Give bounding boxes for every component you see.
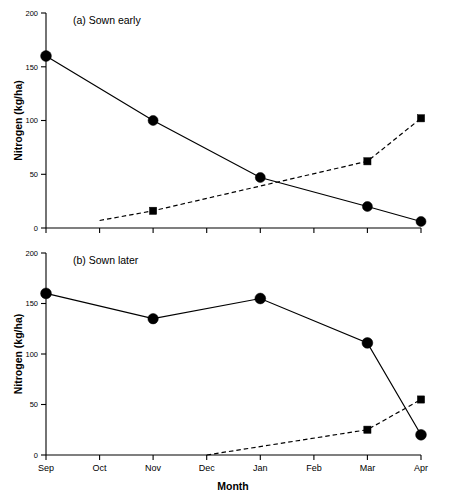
panel-a-ytick-100: 100 [25, 116, 38, 125]
panel-b-label: (b) Sown later [73, 254, 139, 266]
panel-b-crop-nitrogen-line [207, 400, 421, 456]
panel-a-x-ticks [46, 228, 421, 233]
panel-b-ytick-100: 100 [25, 350, 38, 359]
panel-b: (b) Sown later 0 50 100 150 200 [12, 249, 428, 492]
panel-b-soil-nitrogen-markers [41, 288, 427, 440]
panel-a-crop-nitrogen-line [100, 118, 421, 220]
xtick-sep: Sep [38, 463, 54, 473]
panel-a-ytick-150: 150 [25, 63, 38, 72]
xtick-jan: Jan [253, 463, 268, 473]
panel-a-y-axis-title: Nitrogen (kg/ha) [12, 80, 24, 161]
panel-a-crop-nitrogen-markers [150, 115, 425, 215]
panel-a-ytick-0: 0 [34, 224, 38, 233]
panel-a-soil-nitrogen-line [46, 56, 421, 222]
panel-b-ytick-0: 0 [34, 451, 38, 460]
xtick-nov: Nov [145, 463, 162, 473]
panel-a-ytick-50: 50 [30, 170, 38, 179]
x-axis-title: Month [217, 480, 249, 492]
panel-b-ytick-50: 50 [30, 400, 38, 409]
nitrogen-month-chart: (a) Sown early 0 50 100 150 200 [0, 0, 449, 496]
xtick-feb: Feb [306, 463, 322, 473]
panel-b-soil-nitrogen-line [46, 293, 421, 434]
xtick-mar: Mar [360, 463, 376, 473]
panel-b-crop-nitrogen-markers [364, 396, 425, 433]
xtick-apr: Apr [414, 463, 428, 473]
panel-a-y-ticklabels: 0 50 100 150 200 [25, 9, 38, 233]
panel-a: (a) Sown early 0 50 100 150 200 [12, 9, 426, 233]
figure-container: (a) Sown early 0 50 100 150 200 [0, 0, 449, 496]
panel-b-y-ticklabels: 0 50 100 150 200 [25, 249, 38, 460]
xtick-dec: Dec [199, 463, 216, 473]
panel-b-x-ticks [46, 455, 421, 460]
panel-b-ytick-150: 150 [25, 299, 38, 308]
panel-b-ytick-200: 200 [25, 249, 38, 258]
panel-b-y-axis-title: Nitrogen (kg/ha) [12, 314, 24, 395]
xtick-oct: Oct [93, 463, 108, 473]
panel-a-soil-nitrogen-markers [41, 51, 426, 227]
panel-b-y-ticks [41, 253, 46, 455]
panel-a-label: (a) Sown early [73, 14, 141, 26]
panel-a-y-ticks [41, 13, 46, 228]
panel-a-ytick-200: 200 [25, 9, 38, 18]
panel-b-x-ticklabels: Sep Oct Nov Dec Jan Feb Mar Apr [38, 463, 428, 473]
